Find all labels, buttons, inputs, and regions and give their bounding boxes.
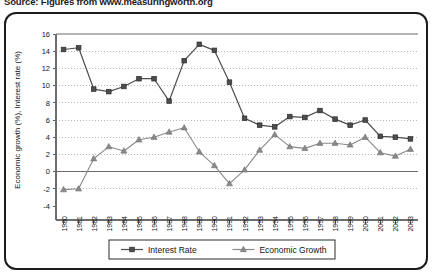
y-tick-label: 8 — [46, 99, 50, 108]
y-tick-label: 6 — [46, 116, 50, 125]
data-point — [393, 135, 398, 140]
data-point — [61, 47, 66, 52]
data-point — [272, 125, 277, 130]
source-note: Source: Figures from www.measuringworth.… — [4, 0, 213, 7]
data-point — [378, 134, 383, 139]
legend-marker — [130, 247, 135, 252]
x-tick-label: 1999 — [347, 216, 354, 232]
data-point — [76, 186, 82, 191]
data-point — [408, 137, 413, 142]
legend-label-2: Economic Growth — [259, 245, 326, 255]
x-tick-label: 1990 — [211, 216, 218, 232]
y-tick-label: 14 — [42, 47, 50, 56]
series-line-1 — [64, 44, 411, 139]
y-tick-label: -2 — [43, 185, 50, 194]
data-point — [348, 123, 353, 128]
y-tick-label: 12 — [42, 64, 50, 73]
data-point — [182, 58, 187, 63]
x-tick-label: 1993 — [257, 216, 264, 232]
y-tick-label: 2 — [46, 150, 50, 159]
x-tick-label: 1989 — [196, 216, 203, 232]
data-point — [227, 80, 232, 85]
data-point — [318, 108, 323, 113]
data-point — [91, 87, 96, 92]
data-point — [122, 84, 127, 89]
data-point — [333, 117, 338, 122]
y-tick-label: 4 — [46, 133, 50, 142]
line-chart: -4-2024681012141619801981198219831984198… — [6, 14, 430, 272]
x-tick-label: 1983 — [106, 216, 113, 232]
x-tick-label: 2003 — [407, 216, 414, 232]
data-point — [363, 118, 368, 123]
x-tick-label: 1997 — [317, 216, 324, 232]
x-tick-label: 1987 — [166, 216, 173, 232]
y-tick-label: 10 — [42, 81, 50, 90]
data-point — [181, 125, 187, 130]
data-point — [106, 143, 112, 148]
data-point — [212, 48, 217, 53]
x-tick-label: 2001 — [377, 216, 384, 232]
chart-frame: -4-2024681012141619801981198219831984198… — [4, 12, 428, 270]
x-tick-label: 1986 — [151, 216, 158, 232]
legend-label-1: Interest Rate — [148, 245, 197, 255]
x-tick-label: 1994 — [272, 216, 279, 232]
x-tick-label: 1988 — [181, 216, 188, 232]
data-point — [272, 131, 278, 136]
y-tick-label: -4 — [43, 202, 50, 211]
data-point — [242, 116, 247, 121]
data-point — [152, 76, 157, 81]
x-tick-label: 1991 — [226, 216, 233, 232]
data-point — [197, 42, 202, 47]
x-tick-label: 1982 — [91, 216, 98, 232]
chart-plot-area: -4-2024681012141619801981198219831984198… — [6, 14, 430, 272]
x-tick-label: 1992 — [242, 216, 249, 232]
data-point — [76, 45, 81, 50]
x-tick-label: 1980 — [61, 216, 68, 232]
series-line-2 — [64, 128, 411, 190]
data-point — [287, 114, 292, 119]
x-tick-label: 1998 — [332, 216, 339, 232]
x-tick-label: 1981 — [76, 216, 83, 232]
data-point — [91, 155, 97, 160]
x-tick-label: 1996 — [302, 216, 309, 232]
data-point — [407, 146, 413, 151]
y-tick-label: 16 — [42, 30, 50, 39]
x-tick-label: 2000 — [362, 216, 369, 232]
data-point — [287, 143, 293, 148]
x-tick-label: 1984 — [121, 216, 128, 232]
x-tick-label: 2002 — [392, 216, 399, 232]
data-point — [362, 134, 368, 139]
data-point — [167, 99, 172, 104]
data-point — [257, 123, 262, 128]
x-tick-label: 1985 — [136, 216, 143, 232]
y-tick-label: 0 — [46, 167, 50, 176]
y-axis-title: Economic growth (%), Interest rate (%) — [13, 51, 22, 189]
x-tick-label: 1995 — [287, 216, 294, 232]
data-point — [303, 115, 308, 120]
data-point — [137, 76, 142, 81]
data-point — [106, 89, 111, 94]
